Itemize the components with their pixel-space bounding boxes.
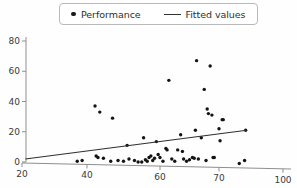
data-point: [238, 162, 241, 165]
y-tick-label: 80: [9, 36, 21, 46]
data-point: [173, 160, 176, 163]
y-axis: 020406080: [9, 36, 26, 167]
data-point: [93, 104, 96, 107]
x-tick-label: 20: [16, 169, 28, 179]
data-point: [181, 150, 184, 153]
fitted-regression-line: [25, 130, 246, 159]
data-point: [76, 160, 79, 163]
x-tick-label: 40: [81, 170, 93, 180]
y-tick-label: 40: [9, 97, 21, 107]
data-point: [204, 159, 207, 162]
data-point: [165, 148, 168, 151]
data-point: [98, 110, 101, 113]
data-point: [222, 118, 225, 121]
x-axis: 20406070100: [16, 163, 292, 185]
data-point: [207, 112, 210, 115]
data-point: [203, 88, 206, 91]
data-point: [193, 157, 196, 160]
data-point: [116, 159, 119, 162]
data-point: [194, 129, 197, 132]
data-point: [195, 59, 198, 62]
data-point: [197, 157, 200, 160]
x-tick-label: 70: [213, 173, 225, 183]
data-point: [185, 160, 188, 163]
data-point: [122, 160, 125, 163]
data-point: [102, 157, 105, 160]
fitted-line-layer: [25, 130, 246, 159]
data-point: [158, 156, 161, 159]
y-tick-label: 20: [9, 127, 21, 137]
data-point: [182, 157, 185, 160]
data-point: [96, 156, 99, 159]
data-point: [218, 139, 221, 142]
data-point: [149, 154, 152, 157]
data-point: [109, 160, 112, 163]
data-point: [208, 64, 211, 67]
data-point: [161, 160, 164, 163]
data-point: [213, 156, 216, 159]
data-point: [133, 159, 136, 162]
y-tick-label: 60: [9, 66, 21, 76]
data-point: [142, 136, 145, 139]
data-point: [179, 133, 182, 136]
data-point: [153, 157, 156, 160]
data-point: [127, 157, 130, 160]
x-tick-label: 100: [274, 175, 291, 185]
data-point: [217, 127, 220, 130]
data-point: [146, 160, 149, 163]
data-point: [210, 113, 213, 116]
data-point: [111, 116, 114, 119]
data-point: [243, 159, 246, 162]
data-point: [206, 107, 209, 110]
scatter-plot: 020406080 20406070100: [0, 0, 297, 188]
data-point: [188, 158, 191, 161]
data-point: [80, 159, 83, 162]
data-point: [170, 157, 173, 160]
x-tick-label: 60: [154, 172, 166, 182]
data-point: [140, 160, 143, 163]
data-point: [167, 79, 170, 82]
y-tick-label: 0: [14, 157, 20, 167]
data-point: [176, 148, 179, 151]
data-point: [136, 160, 139, 163]
data-point: [156, 153, 159, 156]
chart-figure: Performance Fitted values 020406080 2040…: [0, 0, 297, 188]
